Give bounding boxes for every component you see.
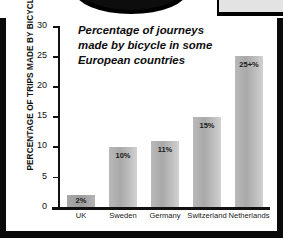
x-tick-label-germany: Germany [144, 211, 186, 220]
x-tick-label-netherlands: Netherlands [228, 211, 270, 220]
y-tick-label-5: 5 [23, 171, 47, 181]
y-tick-5: 5 [53, 177, 60, 179]
y-tick-label-20: 20 [23, 80, 47, 90]
bar-germany[interactable]: 11% [151, 141, 179, 207]
y-tick-label-10: 10 [23, 140, 47, 150]
y-tick-20: 20 [53, 86, 60, 88]
bar-value-sweden: 10% [115, 151, 130, 160]
y-tick-25: 25 [53, 56, 60, 58]
corner-box-rule [217, 12, 283, 14]
bar-slot-sweden: 10% [102, 26, 144, 207]
y-tick-label-0: 0 [23, 201, 47, 211]
x-tick-label-switzerland: Switzerland [186, 211, 228, 220]
y-tick-label-25: 25 [23, 50, 47, 60]
y-tick-10: 10 [53, 146, 60, 148]
plot-area: 30 25 20 15 10 5 0 2% [58, 26, 270, 208]
y-tick-15: 15 [53, 116, 60, 118]
bar-value-switzerland: 15% [199, 121, 214, 130]
bar-value-uk: 2% [76, 196, 87, 205]
y-tick-30: 30 [53, 26, 60, 28]
chart-figure: PERCENTAGE OF TRIPS MADE BY BICYCLE Perc… [0, 0, 283, 238]
y-tick-label-15: 15 [23, 110, 47, 120]
bar-value-netherlands: 25+% [239, 60, 258, 69]
bar-slot-uk: 2% [60, 26, 102, 207]
bar-value-germany: 11% [158, 145, 173, 154]
bar-chart: PERCENTAGE OF TRIPS MADE BY BICYCLE Perc… [6, 20, 277, 231]
bar-sweden[interactable]: 10% [109, 147, 137, 207]
x-tick-label-sweden: Sweden [102, 211, 144, 220]
x-axis-line [52, 207, 270, 210]
bar-switzerland[interactable]: 15% [193, 117, 221, 208]
bar-uk[interactable]: 2% [67, 195, 95, 207]
x-tick-label-uk: UK [60, 211, 102, 220]
bar-slot-switzerland: 15% [186, 26, 228, 207]
x-axis-tick-labels: UK Sweden Germany Switzerland Netherland… [60, 211, 270, 220]
bar-slot-germany: 11% [144, 26, 186, 207]
bar-netherlands[interactable]: 25+% [235, 56, 263, 207]
bar-series: 2% 10% 11% 15% [60, 26, 270, 207]
bar-slot-netherlands: 25+% [228, 26, 270, 207]
y-tick-label-30: 30 [23, 20, 47, 30]
